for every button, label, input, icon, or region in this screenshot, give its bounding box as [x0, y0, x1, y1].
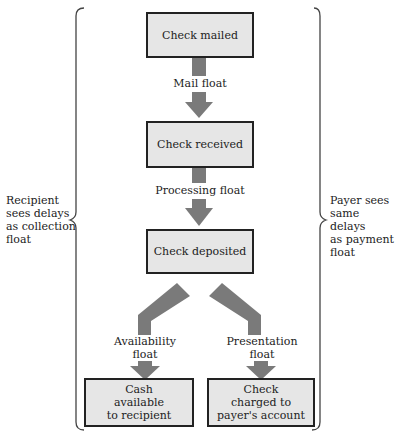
box-check-deposited: Check deposited	[146, 229, 254, 274]
left-side-note: Recipient sees delays as collection floa…	[6, 194, 76, 246]
label-presentation-float: Presentation float	[220, 335, 304, 361]
box-label: Check deposited	[154, 245, 247, 258]
box-check-charged: Check charged to payer's account	[207, 378, 315, 427]
box-cash-available: Cash available to recipient	[84, 378, 194, 427]
box-label: Check received	[157, 138, 243, 151]
box-label: Check mailed	[162, 29, 238, 42]
right-side-note: Payer sees same delays as payment float	[330, 194, 395, 259]
arrow-head	[185, 102, 213, 118]
right-brace	[312, 8, 326, 430]
box-check-received: Check received	[146, 121, 254, 168]
arrow-shaft	[192, 58, 206, 76]
label-processing-float: Processing float	[148, 184, 252, 197]
label-availability-float: Availability float	[105, 335, 185, 361]
label-mail-float: Mail float	[160, 77, 240, 90]
box-check-mailed: Check mailed	[146, 12, 254, 58]
